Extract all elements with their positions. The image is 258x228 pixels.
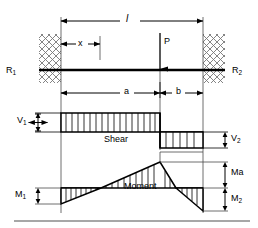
- v2-subscript: 2: [237, 137, 241, 144]
- reaction-left-subscript: 1: [13, 69, 17, 76]
- m1-dimension: [36, 188, 41, 204]
- reaction-right-text: R: [232, 65, 239, 75]
- diagram-canvas: [0, 0, 258, 228]
- shear-caption: Shear: [104, 135, 128, 144]
- ma-dimension: [223, 162, 228, 188]
- reaction-left-label: R1: [6, 66, 16, 75]
- m2-dimension: [223, 188, 228, 211]
- dim-b-label: b: [176, 87, 181, 96]
- m2-subscript: 2: [239, 197, 243, 204]
- a-b-dimension: [61, 82, 203, 98]
- m1-label: M1: [15, 190, 26, 199]
- ma-label: Ma: [231, 168, 244, 177]
- v1-subscript: 1: [23, 119, 27, 126]
- reaction-left-text: R: [6, 65, 13, 75]
- v1-label: V1: [17, 116, 27, 125]
- left-fixed-support: [39, 34, 61, 83]
- v2-label: V2: [231, 134, 241, 143]
- beam-shear-moment-figure: l x P R1 R2 a b V1 V2 Shear M1 Ma M2 Mom…: [0, 0, 258, 228]
- dim-a-label: a: [124, 87, 129, 96]
- shear-diagram: [61, 113, 203, 148]
- m1-text: M: [15, 189, 23, 199]
- v2-dimension: [203, 132, 228, 148]
- load-label: P: [164, 37, 170, 46]
- moment-right-negative-region: [176, 188, 203, 211]
- v1-dimension: [29, 113, 62, 132]
- m2-label: M2: [231, 194, 242, 203]
- reaction-right-label: R2: [232, 66, 242, 75]
- right-fixed-support: [203, 34, 225, 83]
- moment-caption: Moment: [124, 182, 157, 191]
- reaction-right-subscript: 2: [239, 69, 243, 76]
- x-label: x: [78, 39, 83, 48]
- shear-positive-block: [61, 113, 160, 132]
- span-label: l: [126, 14, 128, 24]
- m2-text: M: [231, 193, 239, 203]
- shear-negative-block: [160, 132, 203, 148]
- m1-subscript: 1: [23, 193, 27, 200]
